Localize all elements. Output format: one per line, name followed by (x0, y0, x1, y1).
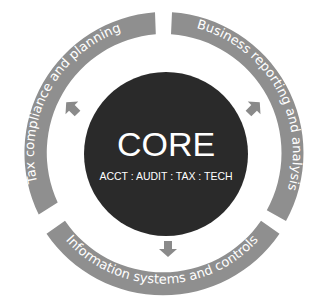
core-diagram: Tax compliance and planning Business rep… (0, 0, 327, 305)
segment-label-info: Information systems and controls (63, 232, 261, 287)
core-subtitle: ACCT : AUDIT : TAX : TECH (99, 170, 232, 182)
arrow-down-icon (159, 241, 177, 257)
arrow-up-left-icon (60, 96, 84, 120)
arrow-up-right-icon (242, 96, 266, 120)
core-title: CORE (117, 125, 215, 163)
